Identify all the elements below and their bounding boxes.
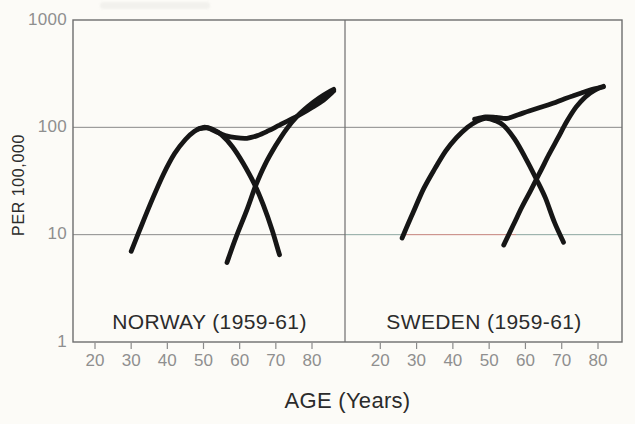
norway-early-curve	[131, 127, 279, 254]
figure-root: 1000 100 10 1 20304050607080203040506070…	[0, 0, 635, 424]
panel-title-sweden: SWEDEN (1959-61)	[346, 310, 622, 334]
x-tick-label-sweden-80: 80	[583, 352, 613, 370]
x-tick-label-sweden-30: 30	[402, 352, 432, 370]
x-tick-label-sweden-40: 40	[438, 352, 468, 370]
y-tick-label-1000: 1000	[0, 11, 67, 29]
x-tick-label-sweden-70: 70	[547, 352, 577, 370]
y-tick-label-1: 1	[0, 333, 67, 351]
sweden-total-curve	[475, 87, 604, 119]
x-tick-label-norway-30: 30	[116, 352, 146, 370]
y-axis-title: PER 100,000	[10, 113, 28, 257]
x-tick-label-norway-80: 80	[297, 352, 327, 370]
x-tick-label-sweden-60: 60	[510, 352, 540, 370]
norway-late-curve	[227, 89, 334, 262]
x-axis-title: AGE (Years)	[73, 388, 622, 414]
x-tick-label-norway-50: 50	[189, 352, 219, 370]
x-tick-label-norway-60: 60	[225, 352, 255, 370]
x-tick-label-sweden-50: 50	[474, 352, 504, 370]
x-tick-label-sweden-20: 20	[365, 352, 395, 370]
x-tick-label-norway-20: 20	[80, 352, 110, 370]
x-tick-label-norway-40: 40	[152, 352, 182, 370]
x-tick-label-norway-70: 70	[261, 352, 291, 370]
panel-title-norway: NORWAY (1959-61)	[74, 310, 345, 334]
sweden-early-curve	[402, 118, 563, 242]
